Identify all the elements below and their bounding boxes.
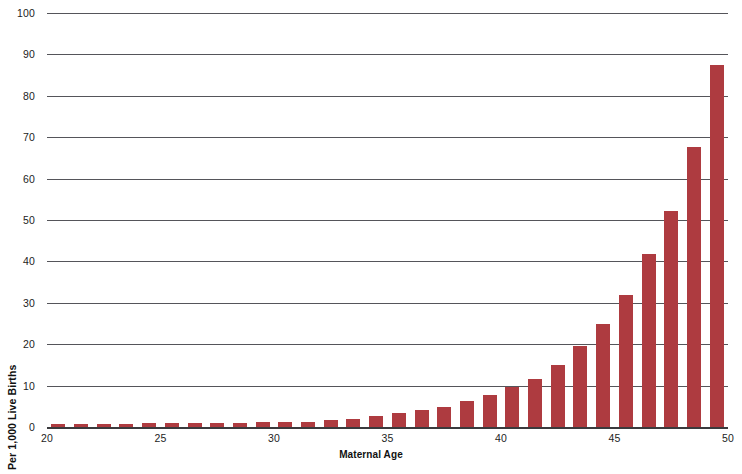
x-tick-label: 20 — [32, 433, 62, 444]
y-axis-title: Per 1,000 Live Births — [6, 310, 18, 470]
x-axis-ticks: 20253035404550 — [0, 0, 742, 474]
x-tick-label: 25 — [146, 433, 176, 444]
y-axis-title-wrap: Per 1,000 Live Births — [10, 310, 11, 311]
x-axis-title: Maternal Age — [0, 449, 742, 460]
x-tick-label: 40 — [486, 433, 516, 444]
x-tick-label: 35 — [373, 433, 403, 444]
x-tick-label: 30 — [259, 433, 289, 444]
x-tick-label: 50 — [713, 433, 742, 444]
maternal-age-bar-chart: 0102030405060708090100 20253035404550 Pe… — [0, 0, 742, 474]
x-tick-label: 45 — [600, 433, 630, 444]
